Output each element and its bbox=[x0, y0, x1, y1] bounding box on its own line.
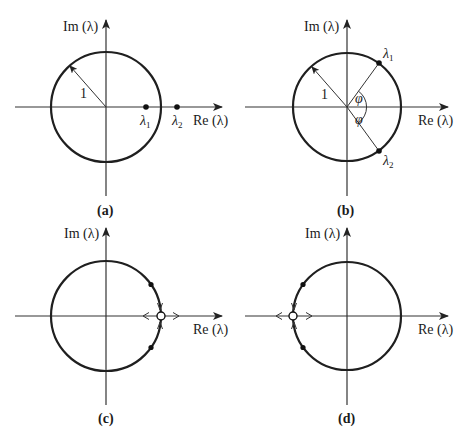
radius-label: 1 bbox=[80, 86, 87, 101]
lower-eigenvalue-point bbox=[148, 345, 153, 350]
im-axis-label: Im (λ) bbox=[304, 19, 340, 35]
panel-b: 1 φ φ λ1 λ2 Re (λ) Im (λ) (b) bbox=[245, 19, 454, 219]
panel-c: Re (λ) Im (λ) (c) bbox=[15, 226, 229, 427]
radius-label: 1 bbox=[321, 87, 328, 102]
re-axis-label: Re (λ) bbox=[193, 113, 229, 129]
re-axis-label: Re (λ) bbox=[418, 113, 454, 129]
lambda1-label: λ1 bbox=[139, 113, 151, 130]
lambda2-point bbox=[376, 148, 382, 154]
eigenvalue-diagram: 1 λ1 λ2 Re (λ) Im (λ) (a) 1 φ φ λ1 λ2 Re… bbox=[0, 0, 470, 438]
panel-d: Re (λ) Im (λ) (d) bbox=[245, 226, 454, 427]
ray-to-lambda2 bbox=[347, 107, 379, 151]
lambda1-point bbox=[376, 60, 382, 66]
ray-to-lambda1 bbox=[347, 63, 379, 107]
upper-eigenvalue-point bbox=[300, 282, 305, 287]
lambda2-label: λ2 bbox=[382, 153, 394, 170]
lower-eigenvalue-point bbox=[300, 345, 305, 350]
re-axis-label: Re (λ) bbox=[193, 322, 229, 338]
radius-arrow bbox=[312, 67, 347, 107]
panel-a: 1 λ1 λ2 Re (λ) Im (λ) (a) bbox=[15, 19, 229, 219]
re-axis-label: Re (λ) bbox=[418, 322, 454, 338]
bifurcation-point bbox=[289, 312, 297, 320]
caption-d: (d) bbox=[338, 411, 355, 427]
im-axis-label: Im (λ) bbox=[64, 226, 100, 242]
lambda2-point bbox=[174, 104, 180, 110]
caption-c: (c) bbox=[98, 411, 114, 427]
lambda1-point bbox=[143, 104, 149, 110]
im-axis-label: Im (λ) bbox=[305, 226, 341, 242]
upper-eigenvalue-point bbox=[148, 282, 153, 287]
lambda1-label: λ1 bbox=[382, 46, 394, 63]
radius-arrow bbox=[70, 66, 106, 107]
caption-b: (b) bbox=[337, 203, 354, 219]
lambda2-label: λ2 bbox=[171, 113, 183, 130]
phi-upper-label: φ bbox=[355, 91, 363, 106]
caption-a: (a) bbox=[97, 203, 114, 219]
phi-lower-label: φ bbox=[355, 112, 363, 127]
bifurcation-point bbox=[157, 312, 165, 320]
im-axis-label: Im (λ) bbox=[63, 19, 99, 35]
